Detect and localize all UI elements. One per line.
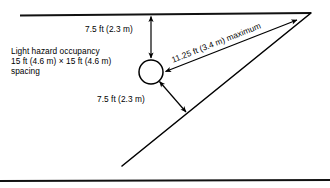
bottom-wall-line (0, 180, 330, 181)
occupancy-label-line-2: 15 ft (4.6 m) × 15 ft (4.6 m) (11, 56, 111, 66)
bottom-dimension-label: 7.5 ft (2.3 m) (97, 94, 145, 104)
sprinkler-head-symbol (139, 60, 163, 84)
sprinkler-spacing-diagram: Light hazard occupancy 15 ft (4.6 m) × 1… (0, 0, 330, 188)
occupancy-label-line-3: spacing (11, 66, 111, 76)
occupancy-label: Light hazard occupancy 15 ft (4.6 m) × 1… (11, 46, 111, 77)
occupancy-label-line-1: Light hazard occupancy (11, 46, 111, 56)
diagram-canvas (0, 0, 330, 188)
top-dimension-label: 7.5 ft (2.3 m) (85, 24, 133, 34)
top-wall-line (20, 13, 311, 16)
bottom-dimension-arrow (160, 82, 187, 113)
diagonal-dimension-arrow (166, 20, 298, 72)
